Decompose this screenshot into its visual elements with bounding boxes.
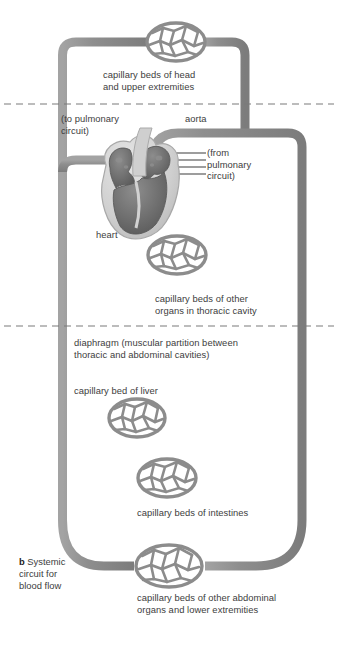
- label-diaphragm: diaphragm (muscular partition between th…: [74, 337, 238, 360]
- capillary-bed-abdominal-icon: [136, 545, 202, 587]
- systemic-circuit-figure: capillary beds of head and upper extremi…: [0, 0, 338, 650]
- label-heart: heart: [96, 229, 118, 241]
- vessel-aorta-lower-arc: [205, 520, 302, 566]
- figure-key: b Systemic circuit for blood flow: [19, 556, 65, 593]
- label-from-pulmonary-circuit: (from pulmonary circuit): [207, 147, 251, 182]
- heart-right-chambers: [109, 148, 134, 188]
- label-capillary-beds-head: capillary beds of head and upper extremi…: [103, 69, 195, 92]
- label-to-pulmonary-circuit: (to pulmonary circuit): [61, 113, 119, 136]
- figure-key-caption: Systemic circuit for blood flow: [19, 556, 65, 591]
- vessel-head-to-aorta: [203, 42, 245, 133]
- label-capillary-beds-intestines: capillary beds of intestines: [137, 507, 248, 519]
- capillary-bed-liver-icon: [109, 399, 165, 437]
- label-capillary-beds-abdominal: capillary beds of other abdominal organs…: [137, 592, 276, 615]
- label-aorta: aorta: [185, 113, 207, 125]
- label-capillary-beds-thoracic: capillary beds of other organs in thorac…: [155, 293, 257, 316]
- capillary-bed-thoracic-icon: [148, 236, 206, 274]
- label-capillary-bed-liver: capillary bed of liver: [74, 385, 158, 397]
- heart-icon: [102, 128, 206, 239]
- capillary-bed-head-icon: [147, 23, 205, 61]
- figure-key-letter: b: [19, 556, 25, 567]
- circulatory-diagram-svg: [0, 0, 338, 650]
- capillary-bed-intestines-icon: [138, 459, 196, 497]
